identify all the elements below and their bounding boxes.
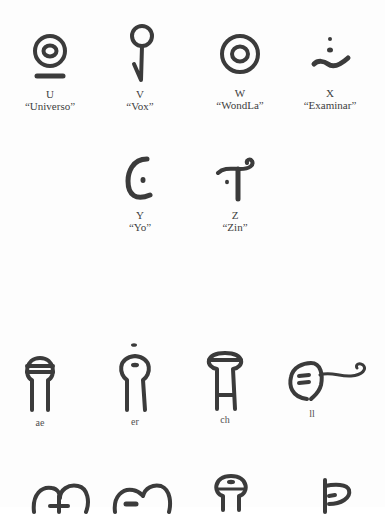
glyph-entry-v: V “Vox” bbox=[100, 22, 180, 112]
glyph-word: “WondLa” bbox=[190, 99, 290, 111]
zin-glyph-icon bbox=[210, 155, 260, 205]
vox-glyph-icon bbox=[120, 22, 160, 84]
glyph-letter: X bbox=[290, 88, 370, 99]
er-glyph-icon bbox=[113, 340, 157, 414]
glyph-entry-z: Z “Zin” bbox=[200, 155, 270, 233]
glyph-digraph: er bbox=[100, 417, 170, 427]
wondla-glyph-icon bbox=[218, 33, 262, 81]
ae-glyph-icon bbox=[20, 350, 60, 414]
ch-glyph-icon bbox=[203, 345, 247, 411]
glyph-letter: W bbox=[190, 88, 290, 99]
glyph-entry-y: Y “Yo” bbox=[110, 155, 170, 233]
glyph-digraph: ae bbox=[10, 418, 70, 428]
keyhole-dash-glyph-icon bbox=[209, 472, 253, 512]
glyph-entry-row4-1 bbox=[25, 482, 95, 518]
glyph-entry-u: U “Universo” bbox=[10, 33, 90, 112]
glyph-entry-row4-2 bbox=[106, 482, 176, 518]
glyph-letter: Y bbox=[110, 210, 170, 221]
glyph-word: “Vox” bbox=[100, 100, 180, 112]
glyph-digraph: ll bbox=[244, 409, 380, 419]
glyph-entry-ae: ae bbox=[10, 350, 70, 428]
glyph-entry-row4-3 bbox=[206, 472, 256, 512]
glyph-word: “Yo” bbox=[110, 221, 170, 233]
glyph-letter: U bbox=[10, 89, 90, 100]
glyph-letter: V bbox=[100, 89, 180, 100]
universo-glyph-icon bbox=[30, 33, 70, 81]
glyph-entry-x: X “Examinar” bbox=[290, 33, 370, 111]
examinar-glyph-icon bbox=[308, 33, 352, 81]
glyph-word: “Universo” bbox=[10, 100, 90, 112]
glyph-entry-ll: ll bbox=[280, 355, 380, 419]
double-loop-dash-glyph-icon bbox=[109, 482, 173, 518]
yo-glyph-icon bbox=[120, 155, 160, 205]
glyph-word: “Zin” bbox=[200, 221, 270, 233]
glyph-word: “Examinar” bbox=[290, 99, 370, 111]
glyph-entry-er: er bbox=[100, 340, 170, 427]
double-loop-bar-glyph-icon bbox=[28, 482, 92, 518]
glyph-entry-row4-4 bbox=[310, 478, 360, 514]
hooked-stem-loop-glyph-icon bbox=[315, 478, 355, 514]
glyph-letter: Z bbox=[200, 210, 270, 221]
glyph-entry-w: W “WondLa” bbox=[190, 33, 290, 111]
ll-glyph-icon bbox=[285, 355, 375, 407]
